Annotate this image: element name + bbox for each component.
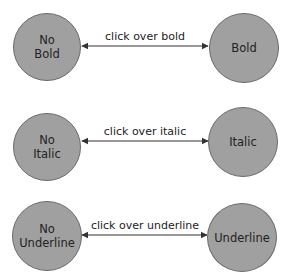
node-bold: Bold xyxy=(209,13,279,83)
node-label: Underline xyxy=(214,231,270,245)
node-label: No xyxy=(34,33,59,47)
edge-label-italic: click over italic xyxy=(95,125,195,138)
node-label: Italic xyxy=(229,135,257,149)
node-underline: Underline xyxy=(207,203,277,272)
node-label: Italic xyxy=(33,147,61,161)
node-label: Bold xyxy=(231,41,256,55)
node-no-bold: NoBold xyxy=(13,13,81,81)
node-no-italic: NoItalic xyxy=(13,113,81,181)
node-label: No xyxy=(19,222,75,236)
node-no-underline: NoUnderline xyxy=(12,201,82,271)
node-label: No xyxy=(33,133,61,147)
node-label: Underline xyxy=(19,236,75,250)
node-label: Bold xyxy=(34,47,59,61)
node-italic: Italic xyxy=(208,107,278,177)
edge-label-bold: click over bold xyxy=(95,30,195,43)
edge-label-underline: click over underline xyxy=(90,219,200,232)
